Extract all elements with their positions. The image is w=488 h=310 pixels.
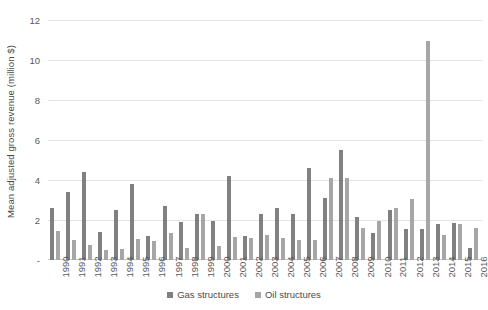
bar-group — [273, 20, 289, 260]
bar-group — [386, 20, 402, 260]
bar-group — [144, 20, 160, 260]
x-axis-tick-label: 2013 — [419, 262, 433, 280]
bar-gas — [163, 206, 167, 260]
bar-oil — [410, 199, 414, 260]
bar-gas — [355, 217, 359, 260]
bar-gas — [66, 192, 70, 260]
bar-group — [96, 20, 112, 260]
x-axis-tick-label: 2001 — [226, 262, 240, 280]
x-axis-tick-label: 2007 — [322, 262, 336, 280]
x-axis-tick-label: 1996 — [145, 262, 159, 280]
bar-group — [305, 20, 321, 260]
x-axis-tick-label: 2006 — [306, 262, 320, 280]
x-axis-tick-label: 1999 — [194, 262, 208, 280]
y-axis-tick-label: 12 — [29, 15, 40, 26]
x-axis-tick-label: 1995 — [129, 262, 143, 280]
y-axis-tick-label: 2 — [35, 215, 40, 226]
bar-gas — [452, 223, 456, 260]
bar-group — [64, 20, 80, 260]
bar-gas — [114, 210, 118, 260]
x-axis-tick-label: 2015 — [451, 262, 465, 280]
bar-oil — [201, 214, 205, 260]
x-axis-tick-label: 2009 — [354, 262, 368, 280]
x-axis-tick-label: 1991 — [65, 262, 79, 280]
y-axis-tick-labels: -24681012 — [18, 0, 44, 262]
y-axis-tick-label: 8 — [35, 95, 40, 106]
bar-group — [48, 20, 64, 260]
bar-group — [112, 20, 128, 260]
bar-group — [225, 20, 241, 260]
x-axis-tick-label: 1998 — [178, 262, 192, 280]
bar-gas — [179, 222, 183, 260]
bar-oil — [361, 228, 365, 260]
bar-group — [289, 20, 305, 260]
bar-gas — [275, 208, 279, 260]
bar-group — [450, 20, 466, 260]
y-axis-title: Mean adjusted gross revenue (million $) — [2, 0, 18, 262]
x-axis-tick-label-text: 2016 — [478, 256, 488, 277]
bar-group — [161, 20, 177, 260]
x-axis-tick-label: 2003 — [258, 262, 272, 280]
bar-group — [321, 20, 337, 260]
y-axis-tick-label: - — [37, 255, 40, 266]
bar-oil — [458, 224, 462, 260]
x-axis-tick-label: 2004 — [274, 262, 288, 280]
x-axis-tick-label: 2002 — [242, 262, 256, 280]
y-axis-tick-label: 4 — [35, 175, 40, 186]
bar-group — [353, 20, 369, 260]
bar-oil — [474, 228, 478, 260]
bar-group — [128, 20, 144, 260]
bar-oil — [426, 41, 430, 260]
x-axis-tick-label: 1993 — [97, 262, 111, 280]
legend-item[interactable]: Gas structures — [167, 289, 239, 300]
legend-swatch-icon — [255, 292, 261, 298]
bar-gas — [436, 224, 440, 260]
bar-gas — [82, 172, 86, 260]
bar-gas — [339, 150, 343, 260]
x-axis-tick-label: 1997 — [162, 262, 176, 280]
bar-gas — [291, 214, 295, 260]
bar-group — [241, 20, 257, 260]
bar-gas — [50, 208, 54, 260]
bar-group — [209, 20, 225, 260]
bar-oil — [329, 178, 333, 260]
bar-gas — [420, 229, 424, 260]
plot-area — [48, 20, 482, 260]
x-axis-tick-label: 2005 — [290, 262, 304, 280]
x-axis-tick-label: 2014 — [435, 262, 449, 280]
bar-group — [257, 20, 273, 260]
bar-gas — [227, 176, 231, 260]
chart-container: Mean adjusted gross revenue (million $) … — [0, 0, 488, 310]
bar-group — [418, 20, 434, 260]
bar-oil — [377, 221, 381, 260]
legend-label: Gas structures — [177, 289, 239, 300]
bar-group — [177, 20, 193, 260]
bar-gas — [211, 221, 215, 260]
bar-gas — [388, 210, 392, 260]
bar-group — [193, 20, 209, 260]
x-axis-tick-label: 2012 — [403, 262, 417, 280]
x-axis-tick-label: 2000 — [210, 262, 224, 280]
y-axis-tick-label: 6 — [35, 135, 40, 146]
bar-gas — [404, 229, 408, 260]
x-axis-tick-label: 2016 — [467, 262, 481, 280]
y-axis-tick-label: 10 — [29, 55, 40, 66]
bars-layer — [48, 20, 482, 260]
x-axis-tick-label: 2010 — [371, 262, 385, 280]
x-axis-tick-label: 1994 — [113, 262, 127, 280]
bar-group — [402, 20, 418, 260]
bar-oil — [394, 208, 398, 260]
bar-gas — [259, 214, 263, 260]
y-axis-title-text: Mean adjusted gross revenue (million $) — [5, 45, 16, 218]
legend-item[interactable]: Oil structures — [255, 289, 321, 300]
x-axis-tick-label: 2008 — [338, 262, 352, 280]
bar-gas — [323, 198, 327, 260]
bar-gas — [195, 214, 199, 260]
bar-group — [337, 20, 353, 260]
x-axis-tick-label: 2011 — [387, 262, 401, 280]
legend-swatch-icon — [167, 292, 173, 298]
legend-label: Oil structures — [265, 289, 321, 300]
x-axis-tick-label: 1992 — [81, 262, 95, 280]
bar-gas — [130, 184, 134, 260]
bar-group — [466, 20, 482, 260]
